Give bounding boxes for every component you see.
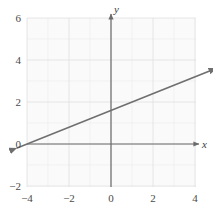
x-tick-label: −4 xyxy=(21,192,33,204)
coordinate-plane-svg: x y −4−2024 6420−2 xyxy=(0,0,213,214)
y-tick-label: 0 xyxy=(16,138,22,150)
y-tick-labels: 6420−2 xyxy=(9,12,21,192)
y-tick-label: 4 xyxy=(16,54,22,66)
y-tick-label: 2 xyxy=(16,96,22,108)
y-axis-label: y xyxy=(113,3,119,15)
x-tick-label: 0 xyxy=(108,192,114,204)
x-tick-label: −2 xyxy=(63,192,75,204)
x-tick-label: 2 xyxy=(150,192,156,204)
y-tick-label: −2 xyxy=(9,180,21,192)
y-tick-label: 6 xyxy=(16,12,22,24)
x-axis-label: x xyxy=(201,138,207,150)
x-tick-label: 4 xyxy=(192,192,198,204)
x-tick-labels: −4−2024 xyxy=(21,192,198,204)
coordinate-plane-figure: x y −4−2024 6420−2 xyxy=(0,0,213,214)
